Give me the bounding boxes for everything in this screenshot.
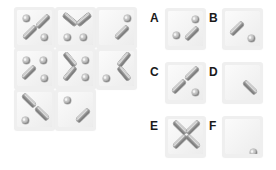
option-label-d: D [209,66,218,78]
bar-marker [36,14,51,29]
cell-face [17,92,52,127]
bar-marker [230,21,245,36]
matrix-cell-2-3 [96,48,137,89]
bar-marker [173,120,188,135]
option-face [225,65,260,100]
dot-marker [41,75,48,82]
bar-marker [22,93,37,108]
option-tile-a[interactable] [165,8,206,49]
option-tile-d[interactable] [222,62,263,103]
dot-marker [192,89,199,96]
dot-marker [250,149,257,154]
bar-marker [117,52,131,67]
dot-marker [23,57,30,64]
option-label-b: B [209,12,218,24]
dot-marker [23,15,30,22]
matrix-cell-2-2 [55,48,96,89]
bar-marker [185,66,200,81]
bar-marker [76,12,91,26]
option-face [168,65,203,100]
option-tile-e[interactable] [165,116,206,157]
puzzle-canvas: ABCDEF [0,0,276,170]
dot-marker [82,74,89,81]
option-face [225,119,260,154]
matrix-cell-2-1 [14,48,55,89]
bar-marker [186,134,201,149]
cell-face [58,92,93,127]
bar-marker [172,79,187,94]
option-face [168,11,203,46]
dot-marker [22,117,29,124]
dot-marker [40,57,47,64]
matrix-cell-1-3 [96,7,137,48]
cell-face [99,51,134,86]
option-label-c: C [150,66,159,78]
option-label-e: E [150,120,158,132]
matrix-cell-3-1 [14,89,55,130]
bar-marker [185,26,200,41]
bar-marker [243,80,258,95]
bar-marker [76,108,91,123]
dot-marker [82,57,89,64]
bar-marker [63,66,77,81]
cell-face [58,10,93,45]
option-face [168,119,203,154]
dot-marker [64,34,71,41]
bar-marker [23,25,38,40]
bar-marker [117,66,131,81]
dot-marker [64,97,71,104]
bar-marker [115,25,130,40]
dot-marker [124,15,131,22]
dot-marker [173,32,180,39]
bar-marker [62,12,77,26]
dot-marker [248,35,255,42]
bar-marker [22,65,37,80]
cell-face [17,10,52,45]
matrix-cell-3-2 [55,89,96,130]
option-face [225,11,260,46]
bar-marker [63,52,77,67]
dot-marker [80,34,87,41]
option-tile-c[interactable] [165,62,206,103]
dot-marker [103,75,110,82]
dot-marker [41,34,48,41]
option-label-a: A [150,12,159,24]
option-tile-b[interactable] [222,8,263,49]
option-label-f: F [209,120,216,132]
cell-face [99,10,134,45]
option-tile-f[interactable] [222,116,263,157]
dot-marker [192,16,199,23]
cell-face [17,51,52,86]
matrix-cell-1-2 [55,7,96,48]
cell-face [58,51,93,86]
matrix-cell-1-1 [14,7,55,48]
bar-marker [186,120,201,135]
bar-marker [35,106,50,121]
